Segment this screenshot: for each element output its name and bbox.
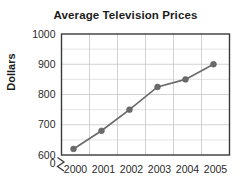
line-chart-plot: 60070080090010000 2000200120022003200420… [0, 0, 251, 182]
y-tick-label-800: 800 [38, 88, 56, 100]
data-point-2003 [155, 84, 161, 90]
x-tick-label-2005: 2005 [204, 163, 228, 175]
data-point-2004 [183, 76, 189, 82]
x-tick-label-2000: 2000 [64, 163, 88, 175]
y-tick-label-origin: 0 [50, 157, 56, 169]
x-axis-tick-labels: 200020012002200320042005 [64, 163, 228, 175]
y-axis-tick-labels: 60070080090010000 [32, 28, 56, 169]
y-tick-label-1000: 1000 [32, 28, 56, 40]
y-tick-label-900: 900 [38, 58, 56, 70]
data-point-2001 [99, 128, 105, 134]
data-point-2002 [127, 107, 133, 113]
x-tick-label-2001: 2001 [92, 163, 116, 175]
x-tick-label-2003: 2003 [148, 163, 172, 175]
y-tick-label-700: 700 [38, 118, 56, 130]
series-line-average-television-price [74, 64, 214, 149]
chart-container: Average Television Prices Dollars 600700… [0, 0, 251, 182]
data-point-2000 [71, 146, 77, 152]
data-point-2005 [211, 61, 217, 67]
x-tick-label-2004: 2004 [176, 163, 200, 175]
x-tick-label-2002: 2002 [120, 163, 144, 175]
